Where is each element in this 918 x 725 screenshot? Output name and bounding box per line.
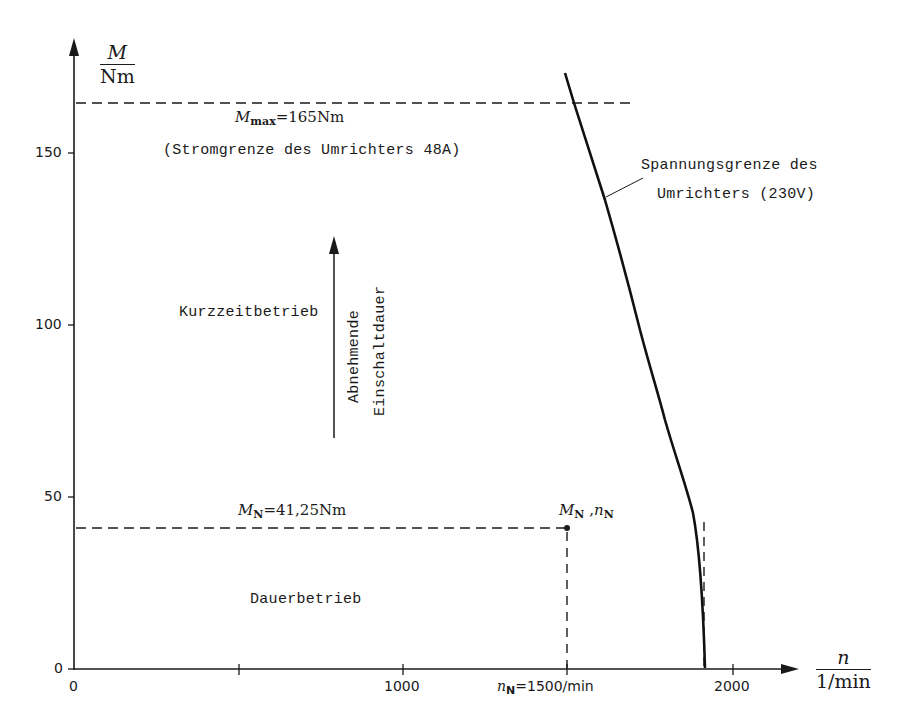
rated-point-label: MN ,nN — [559, 503, 614, 520]
y-tick-label-0: 0 — [54, 661, 63, 675]
y-axis-label-denominator: Nm — [100, 65, 135, 87]
x-axis-label: n 1/min — [816, 648, 871, 692]
x-axis-arrow-icon — [781, 664, 799, 674]
mmax-label: Mmax=165Nm — [235, 110, 344, 127]
mn-label: MN=41,25Nm — [238, 503, 346, 520]
y-tick-label-150: 150 — [35, 145, 62, 159]
voltage-limit-leader-line — [606, 178, 643, 197]
duty-arrow-icon — [329, 236, 339, 254]
x-tick-label-nn: nN=1500/min — [497, 679, 594, 696]
continuous-operation-label: Dauerbetrieb — [250, 592, 362, 607]
duty-label-line2: Einschaltdauer — [372, 286, 389, 416]
y-axis-arrow-icon — [69, 38, 79, 56]
y-axis-label-numerator: M — [100, 43, 135, 65]
x-axis-label-denominator: 1/min — [816, 670, 871, 692]
x-tick-label-1000: 1000 — [384, 679, 420, 693]
x-tick-label-0: 0 — [69, 679, 78, 693]
duty-label-line1: Abnehmende — [346, 310, 363, 403]
y-tick-label-100: 100 — [35, 317, 62, 331]
current-limit-label: (Stromgrenze des Umrichters 48A) — [163, 143, 461, 158]
voltage-limit-label-line1: Spannungsgrenze des — [641, 158, 818, 173]
x-axis-label-numerator: n — [816, 648, 871, 670]
rated-point-marker — [564, 525, 570, 531]
y-axis-label: M Nm — [100, 43, 135, 87]
y-ticks — [68, 153, 74, 669]
x-tick-label-2000: 2000 — [714, 679, 750, 693]
short-term-operation-label: Kurzzeitbetrieb — [179, 305, 319, 320]
y-tick-label-50: 50 — [44, 489, 62, 503]
voltage-limit-label-line2: Umrichters (230V) — [657, 187, 815, 202]
chart-canvas — [0, 0, 918, 725]
